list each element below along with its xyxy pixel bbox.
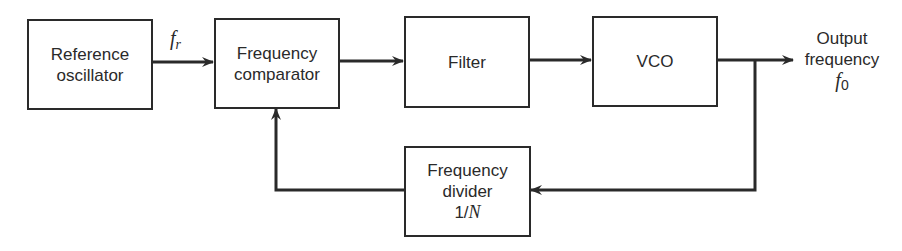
divider-ratio: 1/N — [454, 202, 480, 223]
vco-block: VCO — [592, 16, 718, 107]
block-label-line: Frequency — [427, 160, 507, 181]
block-label-line: Reference — [51, 44, 129, 65]
block-label-line: Frequency — [237, 43, 317, 64]
block-label-line: VCO — [637, 51, 674, 72]
block-label-line: divider — [442, 181, 492, 202]
block-label-line: Filter — [448, 52, 486, 73]
block-label-line: comparator — [234, 64, 320, 85]
filter-block: Filter — [404, 16, 530, 108]
feedback-to-comparator-line — [276, 109, 404, 190]
reference-oscillator-block: Reference oscillator — [27, 19, 153, 110]
reference-frequency-label: fr — [170, 28, 181, 51]
block-label-line: oscillator — [56, 65, 123, 86]
output-frequency-label: Output frequency f0 — [796, 28, 888, 93]
frequency-comparator-block: Frequency comparator — [214, 18, 340, 109]
frequency-divider-block: Frequency divider 1/N — [404, 146, 531, 237]
